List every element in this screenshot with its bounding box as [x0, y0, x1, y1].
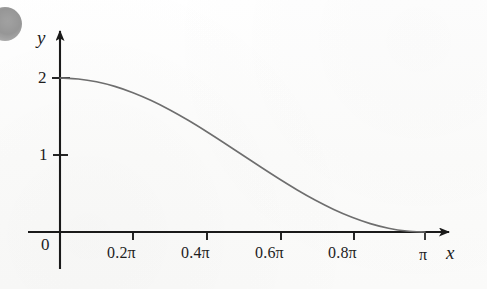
x-tick-label-0.6pi: 0.6π [255, 245, 284, 261]
y-tick-label-1: 1 [39, 146, 48, 163]
x-tick-label-0.8pi: 0.8π [328, 245, 357, 261]
x-tick-label-pi: π [419, 247, 427, 263]
y-axis-label: y [37, 28, 45, 47]
curve-1-plus-cos-x [60, 78, 425, 232]
y-tick-label-2: 2 [38, 69, 47, 86]
x-tick-label-0.2pi: 0.2π [107, 245, 136, 261]
plot-canvas [0, 0, 487, 289]
x-tick-label-0.4pi: 0.4π [181, 245, 210, 261]
x-axis-label: x [446, 243, 454, 262]
graph-screenshot: y x 0 2 1 0.2π 0.4π 0.6π 0.8π π [0, 0, 487, 289]
origin-label: 0 [41, 236, 50, 253]
